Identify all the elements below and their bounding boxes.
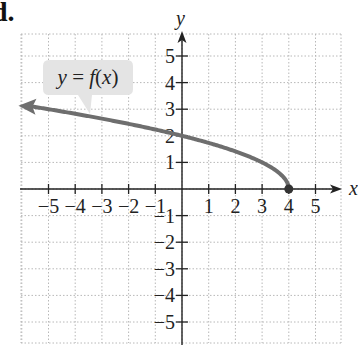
x-tick-label: −5 — [38, 195, 59, 217]
y-tick-label: 2 — [165, 125, 175, 147]
coordinate-plane: y = f(x) xy −5−4−3−2−11234554321−1−2−3−4… — [0, 0, 358, 351]
y-tick-label: −3 — [154, 258, 175, 280]
x-tick-label: 5 — [311, 195, 321, 217]
y-tick-label: −5 — [154, 311, 175, 333]
x-tick-label: 1 — [204, 195, 214, 217]
x-tick-label: −3 — [91, 195, 112, 217]
x-tick-label: −2 — [118, 195, 139, 217]
y-tick-label: 1 — [165, 151, 175, 173]
x-tick-label: 4 — [284, 195, 294, 217]
y-tick-label: −2 — [154, 231, 175, 253]
x-tick-label: 2 — [230, 195, 240, 217]
y-tick-label: 3 — [165, 98, 175, 120]
function-label: y = f(x) — [56, 65, 119, 89]
y-axis-label: y — [174, 7, 185, 30]
x-axis-label: x — [348, 177, 358, 199]
axes: xy — [20, 7, 358, 345]
y-tick-label: 5 — [165, 45, 175, 67]
problem-label: d. — [0, 0, 15, 28]
function-curve — [18, 99, 293, 194]
closed-endpoint-dot — [284, 185, 293, 194]
y-tick-label: 4 — [165, 72, 175, 94]
y-tick-label: −1 — [154, 205, 175, 227]
function-label-callout: y = f(x) — [43, 60, 133, 114]
function-curve-path — [34, 107, 289, 189]
y-tick-label: −4 — [154, 284, 175, 306]
graph-figure: d. y = f(x) xy −5−4−3−2−11234554321−1−2−… — [0, 0, 358, 351]
x-tick-label: 3 — [257, 195, 267, 217]
x-tick-label: −4 — [65, 195, 86, 217]
